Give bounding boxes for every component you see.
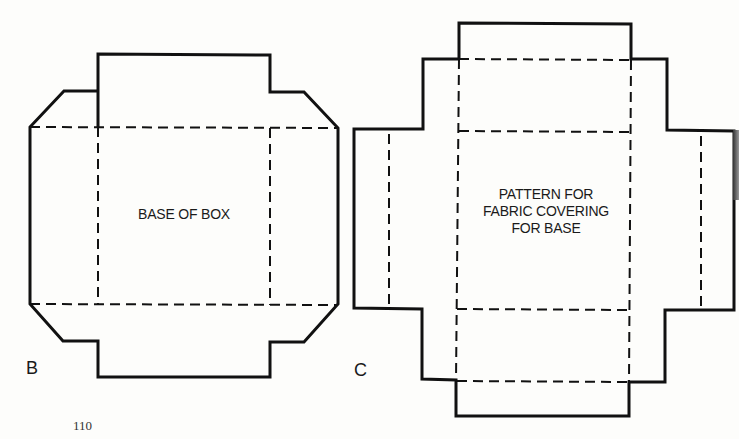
- page-number: 110: [73, 418, 92, 434]
- figure-c-label: PATTERN FOR FABRIC COVERING FOR BASE: [466, 186, 626, 237]
- figure-c-label-line-2: FABRIC COVERING: [466, 203, 626, 220]
- figure-c-label-line-3: FOR BASE: [466, 220, 626, 237]
- figure-c-label-line-1: PATTERN FOR: [466, 186, 626, 203]
- figure-b-letter: B: [26, 358, 38, 379]
- figure-c-letter: C: [354, 360, 367, 381]
- page-edge-shadow: [733, 130, 739, 200]
- figure-b-label: BASE OF BOX: [104, 206, 264, 223]
